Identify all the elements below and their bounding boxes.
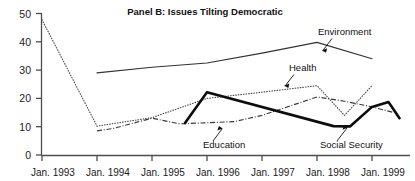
x-tick-label: Jan. 1999	[361, 167, 405, 178]
series-label-education: Education	[203, 139, 245, 150]
series-label-social-security: Social Security	[320, 139, 383, 150]
y-tick-label: 30	[19, 64, 31, 76]
y-tick-label: 50	[19, 8, 31, 20]
y-tick-label: 10	[19, 121, 31, 133]
series-label-environment: Environment	[318, 26, 372, 37]
y-tick-label: 20	[19, 92, 31, 104]
x-tick-label: Jan. 1993	[31, 167, 75, 178]
x-axis-labels: Jan. 1993 Jan. 1994 Jan. 1995 Jan. 1996 …	[31, 167, 405, 178]
series-label-health: Health	[289, 62, 316, 73]
x-tick-label: Jan. 1997	[251, 167, 295, 178]
y-tick-label: 0	[25, 149, 31, 161]
chart-title: Panel B: Issues Tilting Democratic	[127, 6, 283, 17]
x-tick-label: Jan. 1995	[141, 167, 185, 178]
chart-container: Panel B: Issues Tilting Democratic 50 40…	[0, 0, 415, 181]
x-tick-label: Jan. 1998	[306, 167, 350, 178]
y-tick-label: 40	[19, 36, 31, 48]
x-tick-label: Jan. 1996	[196, 167, 240, 178]
x-tick-label: Jan. 1994	[86, 167, 130, 178]
line-chart: Panel B: Issues Tilting Democratic 50 40…	[0, 0, 415, 181]
